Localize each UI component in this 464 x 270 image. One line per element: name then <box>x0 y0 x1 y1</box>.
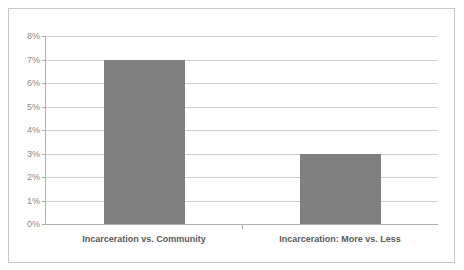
y-axis-tick-mark <box>42 36 46 37</box>
y-axis-tick-mark <box>42 130 46 131</box>
plot-area: 0%1%2%3%4%5%6%7%8%Incarceration vs. Comm… <box>45 36 438 225</box>
y-axis-tick-label: 5% <box>27 102 40 111</box>
y-axis-tick-mark <box>42 154 46 155</box>
y-axis-tick-mark <box>42 60 46 61</box>
y-axis-tick-mark <box>42 224 46 225</box>
y-axis-tick-label: 4% <box>27 126 40 135</box>
y-axis-tick-label: 6% <box>27 79 40 88</box>
y-axis-tick-label: 1% <box>27 196 40 205</box>
y-axis-tick-mark <box>42 107 46 108</box>
y-axis-tick-label: 7% <box>27 55 40 64</box>
category-label: Incarceration: More vs. Less <box>279 235 401 244</box>
y-axis-tick-label: 3% <box>27 149 40 158</box>
chart-frame: 0%1%2%3%4%5%6%7%8%Incarceration vs. Comm… <box>8 8 455 263</box>
bar <box>104 60 185 225</box>
y-axis-tick-mark <box>42 177 46 178</box>
category-label: Incarceration vs. Community <box>82 235 206 244</box>
y-axis-tick-mark <box>42 83 46 84</box>
y-axis-tick-label: 8% <box>27 32 40 41</box>
y-axis-tick-mark <box>42 201 46 202</box>
x-axis-tick-mark <box>242 224 243 229</box>
gridline <box>46 36 438 37</box>
y-axis-tick-label: 2% <box>27 173 40 182</box>
bar <box>300 154 381 225</box>
y-axis-tick-label: 0% <box>27 220 40 229</box>
